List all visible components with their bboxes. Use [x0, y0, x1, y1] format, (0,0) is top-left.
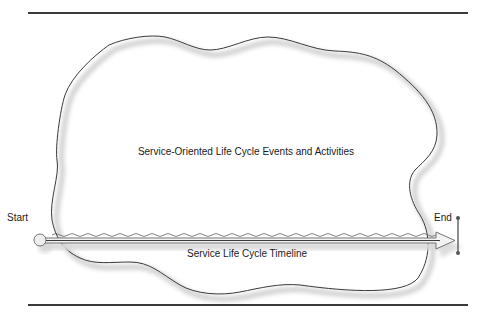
timeline-label: Service Life Cycle Timeline: [0, 248, 488, 260]
lifecycle-diagram: [0, 0, 488, 318]
timeline-wave: [52, 234, 436, 237]
cloud-shadow: [56, 41, 442, 299]
end-label: End: [434, 212, 452, 224]
start-circle: [34, 234, 46, 246]
start-label: Start: [7, 212, 28, 224]
bottom-rule: [28, 304, 468, 306]
cloud-label: Service-Oriented Life Cycle Events and A…: [0, 146, 488, 158]
